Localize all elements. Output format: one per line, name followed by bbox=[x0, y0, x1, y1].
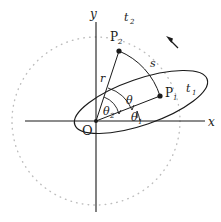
svg-text:2: 2 bbox=[117, 38, 123, 46]
svg-text:P: P bbox=[165, 86, 173, 100]
svg-text:1: 1 bbox=[192, 89, 196, 97]
svg-text:θ: θ bbox=[131, 111, 138, 124]
theta-label: θ bbox=[126, 94, 133, 107]
orbital-geometry-figure: y x O t 2 P 2 P 1 t 1 r s θ θ bbox=[0, 0, 221, 222]
time-label-t2: t 2 bbox=[124, 11, 135, 26]
svg-text:t: t bbox=[186, 82, 191, 95]
svg-text:2: 2 bbox=[129, 18, 135, 26]
theta1-label: θ 1 bbox=[131, 111, 142, 126]
svg-text:t: t bbox=[124, 11, 129, 24]
y-axis-label: y bbox=[89, 7, 97, 21]
point-origin bbox=[94, 119, 98, 123]
svg-text:1: 1 bbox=[173, 94, 177, 102]
origin-label: O bbox=[82, 123, 93, 138]
point-P2 bbox=[116, 48, 121, 53]
x-axis-label: x bbox=[208, 115, 215, 129]
figure-canvas: y x O t 2 P 2 P 1 t 1 r s θ θ bbox=[0, 0, 221, 222]
svg-text:θ: θ bbox=[103, 105, 110, 118]
svg-text:2: 2 bbox=[109, 112, 115, 120]
time-label-t1: t 1 bbox=[186, 82, 196, 97]
point-label-P1: P 1 bbox=[165, 86, 177, 102]
point-label-P2: P 2 bbox=[110, 30, 123, 46]
svg-text:P: P bbox=[110, 30, 118, 44]
theta2-label: θ 2 bbox=[103, 105, 115, 120]
radius-label: r bbox=[100, 72, 106, 85]
motion-direction-arrow bbox=[166, 36, 178, 48]
point-P1 bbox=[157, 93, 162, 98]
arc-length-label: s bbox=[150, 57, 156, 70]
svg-text:1: 1 bbox=[138, 118, 142, 126]
